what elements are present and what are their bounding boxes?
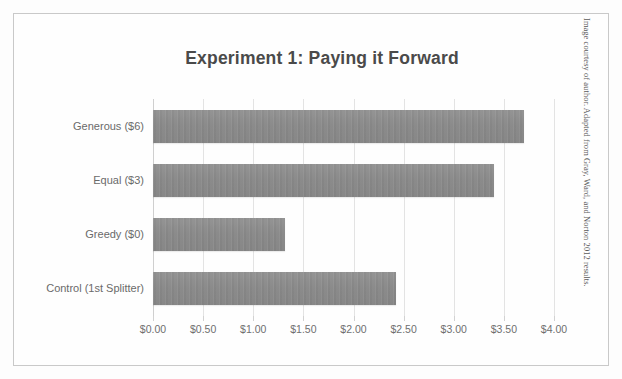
x-tick-mark [554, 316, 555, 321]
figure-container: Experiment 1: Paying it Forward $0.00$0.… [0, 0, 622, 379]
bar-row: Greedy ($0) [153, 218, 554, 251]
x-tick-mark [153, 316, 154, 321]
source-caption: Image courtesy of author. Adapted from G… [578, 18, 594, 348]
bar [153, 164, 494, 197]
category-label: Greedy ($0) [0, 228, 144, 241]
bar [153, 218, 285, 251]
x-tick-mark [504, 316, 505, 321]
category-label: Generous ($6) [0, 120, 144, 133]
plot-area: $0.00$0.50$1.00$1.50$2.00$2.50$3.00$3.50… [153, 99, 554, 316]
x-tick-mark [354, 316, 355, 321]
x-tick-mark [454, 316, 455, 321]
x-tick-mark [303, 316, 304, 321]
chart-title: Experiment 1: Paying it Forward [14, 48, 610, 69]
x-tick-mark [203, 316, 204, 321]
bar-row: Generous ($6) [153, 110, 554, 143]
category-label: Equal ($3) [0, 174, 144, 187]
x-tick-mark [253, 316, 254, 321]
x-tick-mark [404, 316, 405, 321]
category-label: Control (1st Splitter) [0, 282, 144, 295]
x-tick-label: $4.00 [524, 323, 584, 335]
bar-row: Equal ($3) [153, 164, 554, 197]
bar-row: Control (1st Splitter) [153, 272, 554, 305]
x-gridline [554, 99, 555, 316]
bar [153, 272, 396, 305]
bar [153, 110, 524, 143]
figure-border-frame: Experiment 1: Paying it Forward $0.00$0.… [13, 13, 609, 366]
